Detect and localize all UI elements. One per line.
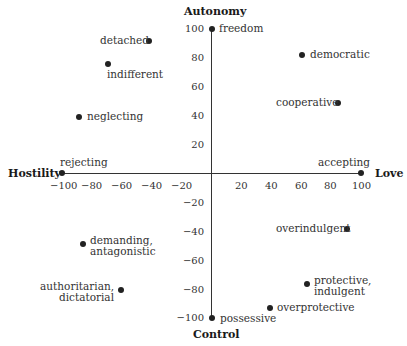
point-overprotective <box>267 305 273 311</box>
point-rejecting <box>59 170 65 176</box>
y-axis-positive-title: Autonomy <box>184 5 246 18</box>
x-axis-negative-title: Hostility <box>8 167 61 180</box>
label-demanding-antagonistic: demanding, antagonistic <box>90 235 156 257</box>
x-tick: 40 <box>265 180 278 191</box>
x-tick: −100 <box>50 180 77 191</box>
x-tick: 80 <box>324 180 337 191</box>
x-tick: −80 <box>81 180 102 191</box>
y-tick: −20 <box>183 197 204 208</box>
point-protective-indulgent <box>304 281 310 287</box>
label-indifferent: indifferent <box>107 69 163 80</box>
y-tick: −60 <box>183 255 204 266</box>
label-democratic: democratic <box>310 49 370 60</box>
y-tick: 100 <box>185 23 204 34</box>
label-accepting: accepting <box>318 157 370 168</box>
point-indifferent <box>105 61 111 67</box>
label-line: dictatorial <box>40 292 114 303</box>
y-tick: 40 <box>191 110 204 121</box>
point-freedom <box>209 26 215 32</box>
x-tick: 100 <box>352 180 371 191</box>
label-protective-indulgent: protective, indulgent <box>314 275 371 297</box>
label-possessive: possessive <box>220 313 276 324</box>
x-tick: 60 <box>295 180 308 191</box>
point-authoritarian-dictatorial <box>118 287 124 293</box>
parenting-styles-circumplex-chart: Autonomy Control Hostility Love 100 80 6… <box>0 0 407 346</box>
label-neglecting: neglecting <box>87 111 143 122</box>
y-tick: −80 <box>183 284 204 295</box>
label-detached: detached <box>100 35 149 46</box>
x-axis-positive-title: Love <box>375 167 403 180</box>
label-line: indulgent <box>314 286 371 297</box>
y-tick: 60 <box>191 81 204 92</box>
x-tick: −60 <box>111 180 132 191</box>
x-tick: 20 <box>235 180 248 191</box>
x-tick: −40 <box>141 180 162 191</box>
point-neglecting <box>76 114 82 120</box>
y-tick: 80 <box>191 52 204 63</box>
x-tick: −20 <box>171 180 192 191</box>
y-axis-line <box>211 29 212 318</box>
y-tick: 20 <box>191 139 204 150</box>
label-line: antagonistic <box>90 246 156 257</box>
label-freedom: freedom <box>219 23 263 34</box>
y-axis-negative-title: Control <box>193 328 239 341</box>
point-accepting <box>358 170 364 176</box>
label-overindulgent: overindulgent <box>276 223 350 234</box>
point-democratic <box>299 52 305 58</box>
label-authoritarian-dictatorial: authoritarian, dictatorial <box>40 281 114 303</box>
label-overprotective: overprotective <box>277 302 355 313</box>
y-tick: −40 <box>183 226 204 237</box>
label-rejecting: rejecting <box>60 157 108 168</box>
point-possessive <box>209 315 215 321</box>
y-tick: −100 <box>177 312 204 323</box>
point-demanding-antagonistic <box>80 241 86 247</box>
label-cooperative: cooperative <box>276 97 338 108</box>
